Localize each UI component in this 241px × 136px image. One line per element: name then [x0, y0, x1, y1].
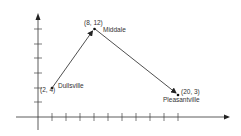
y-axis-arrow-icon — [36, 13, 41, 20]
point-middale — [93, 28, 96, 31]
middale-coord-label: (8, 12) — [84, 19, 103, 27]
coordinate-diagram: (2, 4) Dullsville (8, 12) Middale (20, 3… — [0, 0, 241, 136]
pleasantville-coord-label: (20, 3) — [181, 88, 200, 96]
dullsville-name-label: Dullsville — [58, 82, 84, 89]
pleasantville-name-label: Pleasantville — [163, 96, 200, 103]
route-arrow-middale-pleasantville — [95, 29, 176, 93]
x-axis-arrow-icon — [224, 115, 230, 120]
route-arrow-dullsville-middale — [52, 31, 93, 88]
x-axis — [16, 113, 230, 121]
y-axis — [34, 13, 42, 130]
dullsville-coord-label: (2, 4) — [40, 86, 55, 94]
middale-name-label: Middale — [103, 26, 126, 33]
